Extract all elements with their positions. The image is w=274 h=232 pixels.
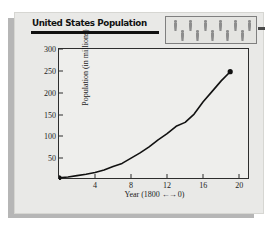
y-tick-label: 250 <box>44 66 56 75</box>
x-axis-title-text: Year (1800 <box>124 190 161 199</box>
figure-card: United States Population <box>14 12 264 214</box>
x-tick-mark <box>203 174 204 178</box>
y-tick-mark <box>59 158 63 159</box>
y-tick-label: 50 <box>48 154 56 163</box>
y-axis-title: Population (in millions) <box>81 16 90 120</box>
chart-plot-area: Population (in millions) Year (1800 ←→ 0… <box>58 48 249 179</box>
x-tick-mark <box>239 174 240 178</box>
x-tick-label: 20 <box>235 181 243 190</box>
y-tick-mark <box>59 136 63 137</box>
x-axis-title-tail: 0) <box>176 190 185 199</box>
x-tick-label: 8 <box>129 181 133 190</box>
x-tick-label: 16 <box>199 181 207 190</box>
x-tick-mark <box>95 174 96 178</box>
x-tick-label: 12 <box>163 181 171 190</box>
y-tick-label: 150 <box>44 110 56 119</box>
y-tick-label: 300 <box>44 45 56 54</box>
y-tick-label: 200 <box>44 88 56 97</box>
screenshot-root: United States Population <box>0 0 274 232</box>
y-tick-mark <box>59 114 63 115</box>
x-tick-mark <box>131 174 132 178</box>
person-icon-panel <box>165 16 257 44</box>
title-rule <box>31 31 159 34</box>
bidirectional-arrow-icon: ←→ <box>162 190 176 199</box>
y-tick-label: 100 <box>44 132 56 141</box>
y-tick-mark <box>59 92 63 93</box>
dash-icon <box>258 27 265 30</box>
x-tick-mark <box>167 174 168 178</box>
x-axis-title: Year (1800 ←→ 0) <box>59 190 250 199</box>
x-tick-label: 4 <box>93 181 97 190</box>
y-tick-mark <box>59 70 63 71</box>
y-tick-mark <box>59 49 63 50</box>
